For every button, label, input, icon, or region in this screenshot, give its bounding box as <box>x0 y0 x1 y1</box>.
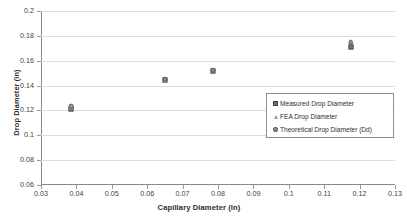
x-tick-label: 0.06 <box>132 190 162 198</box>
gridline <box>41 86 395 87</box>
x-axis-title: Capillary Diameter (in) <box>0 203 398 212</box>
data-point-circle <box>163 77 168 82</box>
x-tick-label: 0.11 <box>309 190 339 198</box>
y-tick-label: 0.06 <box>0 181 34 189</box>
legend-item-label: Theoretical Drop Diameter (Dd) <box>280 126 372 134</box>
y-tick-label: 0.16 <box>0 57 34 65</box>
y-tick-label: 0.12 <box>0 106 34 114</box>
data-point-circle <box>69 104 74 109</box>
legend-item-label: FEA Drop Diameter <box>280 113 337 121</box>
legend-item-label: Measured Drop Diameter <box>280 100 354 108</box>
x-tick-label: 0.12 <box>345 190 375 198</box>
legend-item-theoretical: Theoretical Drop Diameter (Dd) <box>271 123 389 136</box>
x-tick-label: 0.04 <box>61 190 91 198</box>
plot-border-left <box>41 11 42 185</box>
data-point-square <box>348 45 353 50</box>
y-tick-label: 0.2 <box>0 7 34 15</box>
chart-legend: Measured Drop Diameter FEA Drop Diameter… <box>266 93 394 138</box>
data-point-circle <box>348 40 353 45</box>
gridline <box>41 36 395 37</box>
y-tick-label: 0.08 <box>0 156 34 164</box>
gridline <box>41 61 395 62</box>
x-tick-label: 0.1 <box>274 190 304 198</box>
data-point-circle <box>210 68 215 73</box>
y-tick-label: 0.18 <box>0 32 34 40</box>
x-tick-label: 0.03 <box>26 190 56 198</box>
legend-item-measured: Measured Drop Diameter <box>271 97 389 110</box>
triangle-marker-icon <box>271 115 280 119</box>
y-tick-label: 0.1 <box>0 131 34 139</box>
x-tick-label: 0.13 <box>380 190 407 198</box>
y-tick-label: 0.14 <box>0 82 34 90</box>
x-tick-label: 0.05 <box>97 190 127 198</box>
square-marker-icon <box>271 101 280 106</box>
x-tick-label: 0.09 <box>238 190 268 198</box>
circle-marker-icon <box>271 127 280 131</box>
legend-item-fea: FEA Drop Diameter <box>271 110 389 123</box>
x-tick-label: 0.08 <box>203 190 233 198</box>
gridline <box>41 160 395 161</box>
x-tick-label: 0.07 <box>168 190 198 198</box>
gridline <box>41 11 395 12</box>
